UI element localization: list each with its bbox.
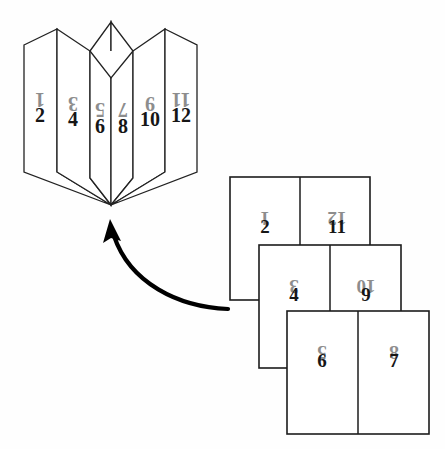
stack-sheet-bottom-left-upright-number: 6 [317,350,327,371]
fold-panel-2-numbers: 3 4 [68,93,78,130]
stack-sheet-bottom-right-upright-number: 7 [389,350,399,371]
stack-sheet-middle-left-upright-number: 4 [289,284,299,305]
stack-sheet-middle-right-upright-number: 9 [361,284,371,305]
fold-panel-5-upright-number: 10 [140,108,160,130]
figure-canvas: 1 2 3 4 5 6 7 8 9 10 11 12 [0,0,445,449]
fold-panel-6-upright-number: 12 [171,104,191,126]
fold-panel-1-upright-number: 2 [35,104,45,126]
fold-panel-4-numbers: 7 8 [118,99,128,137]
stack-sheet-top-left-upright-number: 2 [260,216,270,237]
stack-sheet-bottom: 5 6 8 7 [287,311,429,434]
fold-panel-4-upright-number: 8 [118,115,128,137]
folded-signature-group: 1 2 3 4 5 6 7 8 9 10 11 12 [24,22,197,205]
fold-panel-2-upright-number: 4 [68,108,78,130]
folding-direction-arrow [103,219,228,309]
fold-panel-3-upright-number: 6 [95,115,105,137]
arrow-curve [114,236,228,309]
arrow-head-icon [103,219,121,243]
fold-panel-1-numbers: 1 2 [35,89,45,126]
imposition-diagram: 1 2 3 4 5 6 7 8 9 10 11 12 [0,0,445,449]
flat-stack-group: 1 2 12 11 3 4 10 9 5 6 8 7 [230,177,429,434]
fold-panel-3-numbers: 5 6 [95,99,105,137]
stack-sheet-top-right-upright-number: 11 [328,216,346,237]
fold-panel-6-numbers: 11 12 [171,89,191,126]
